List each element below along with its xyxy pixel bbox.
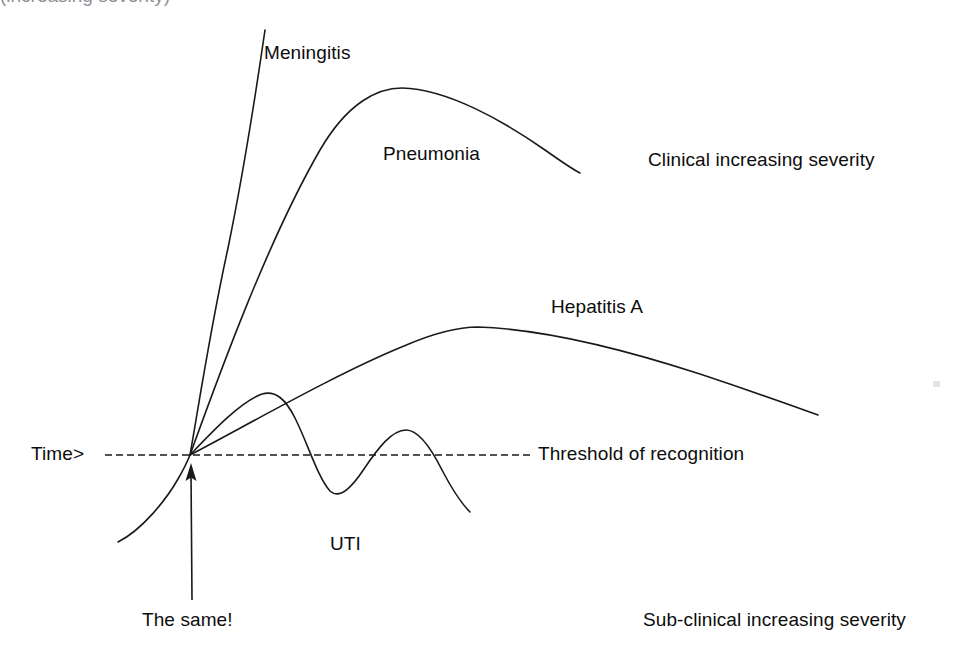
label-clinical-severity: Clinical increasing severity	[648, 149, 875, 171]
diagram-canvas	[0, 0, 960, 654]
label-time-axis: Time>	[31, 443, 84, 465]
label-pneumonia: Pneumonia	[383, 143, 480, 165]
curve-lead-in	[118, 455, 190, 542]
curve-uti	[190, 393, 470, 512]
curve-hepatitis-a	[190, 327, 818, 455]
label-the-same: The same!	[142, 609, 233, 631]
label-meningitis: Meningitis	[264, 42, 351, 64]
label-hepatitis-a: Hepatitis A	[551, 296, 643, 318]
scan-artifact-speck	[933, 381, 940, 387]
label-subclinical-severity: Sub-clinical increasing severity	[643, 609, 906, 631]
curve-meningitis	[190, 30, 265, 455]
label-threshold: Threshold of recognition	[538, 443, 744, 465]
label-uti: UTI	[330, 533, 361, 555]
the-same-arrow-shaft	[191, 472, 192, 600]
infection-severity-diagram: (increasing severity) Meningitis Pneumon…	[0, 0, 960, 654]
